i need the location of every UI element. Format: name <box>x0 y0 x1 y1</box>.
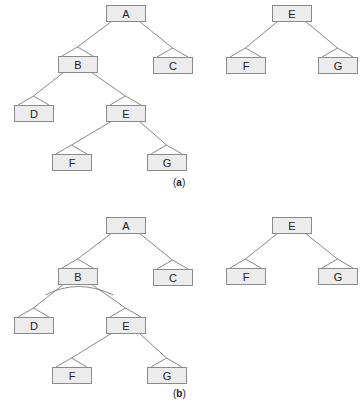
node-b: B <box>59 57 98 73</box>
node-label: E <box>122 108 129 120</box>
triangle-hat-g <box>151 145 182 154</box>
edge-a-b <box>78 233 113 259</box>
subtree: EFG <box>227 218 358 285</box>
edge-e-f <box>246 233 279 259</box>
triangle-hat-f <box>230 259 261 268</box>
node-label: B <box>74 59 81 71</box>
triangle-hat-f <box>56 358 87 367</box>
triangle-hat-g <box>151 358 182 367</box>
triangle-hat-d <box>18 96 49 105</box>
node-label: A <box>122 8 130 20</box>
edge-e-g <box>139 333 167 358</box>
node-f: F <box>53 155 92 171</box>
node-a: A <box>107 6 146 22</box>
node-label: E <box>288 220 295 232</box>
node-label: B <box>74 271 81 283</box>
subtree: EFG <box>227 6 358 74</box>
edge-b-e <box>91 72 126 96</box>
triangle-hat-c <box>157 260 188 269</box>
edge-e-g <box>305 21 338 48</box>
caption-close: ) <box>182 177 185 188</box>
edge-a-c <box>139 233 173 260</box>
node-label: G <box>163 157 172 169</box>
node-e: E <box>107 106 146 122</box>
edge-e-f <box>246 21 279 48</box>
triangle-hat-g <box>322 259 353 268</box>
node-label: G <box>334 271 343 283</box>
triangle-hat-f <box>56 145 87 154</box>
node-label: A <box>122 220 130 232</box>
node-a: A <box>107 218 146 234</box>
node-f: F <box>227 58 266 74</box>
node-g: G <box>319 269 358 285</box>
node-g: G <box>319 58 358 74</box>
triangle-hat-b <box>62 259 93 268</box>
main-tree: ABCDEFG <box>15 6 193 171</box>
node-f: F <box>53 368 92 384</box>
panel-caption: (a) <box>173 177 185 188</box>
edge-a-b <box>78 21 113 47</box>
triangle-hat-g <box>322 48 353 57</box>
edge-a-c <box>139 21 173 48</box>
node-b: B <box>59 269 98 285</box>
node-label: G <box>163 370 172 382</box>
node-label: F <box>69 370 76 382</box>
node-label: F <box>69 157 76 169</box>
edge-e-g <box>139 121 167 145</box>
node-label: F <box>243 60 250 72</box>
node-label: D <box>30 108 38 120</box>
tree-diagram: ABCDEFGEFG(a)ABCDEFGEFG(b) <box>0 0 363 400</box>
node-label: C <box>169 60 177 72</box>
triangle-hat-c <box>157 48 188 57</box>
edge-b-e <box>91 284 126 308</box>
edge-e-g <box>305 233 338 259</box>
node-label: G <box>334 60 343 72</box>
triangle-hat-d <box>18 308 49 317</box>
caption-close: ) <box>182 388 185 399</box>
main-tree: ABCDEFG <box>15 218 193 384</box>
node-e: E <box>107 318 146 334</box>
node-g: G <box>148 155 187 171</box>
node-c: C <box>154 270 193 286</box>
node-d: D <box>15 318 54 334</box>
triangle-hat-e <box>110 96 141 105</box>
node-label: E <box>288 8 295 20</box>
triangle-hat-b <box>62 47 93 56</box>
triangle-hat-e <box>110 308 141 317</box>
edge-b-d <box>34 284 65 308</box>
edge-b-d <box>34 72 65 96</box>
node-c: C <box>154 58 193 74</box>
edge-e-f <box>72 121 113 145</box>
node-label: E <box>122 320 129 332</box>
arc-b <box>46 287 114 296</box>
node-label: C <box>169 272 177 284</box>
panel-a: ABCDEFGEFG(a) <box>15 6 358 189</box>
node-e: E <box>273 6 312 22</box>
node-d: D <box>15 106 54 122</box>
node-g: G <box>148 368 187 384</box>
node-e: E <box>273 218 312 234</box>
panel-caption: (b) <box>173 388 186 399</box>
edge-e-f <box>72 333 113 358</box>
node-f: F <box>227 269 266 285</box>
panel-b: ABCDEFGEFG(b) <box>15 218 358 400</box>
node-label: D <box>30 320 38 332</box>
node-label: F <box>243 271 250 283</box>
triangle-hat-f <box>230 48 261 57</box>
